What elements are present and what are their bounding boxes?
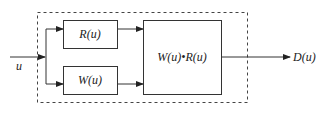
w-block-label: W(u) — [78, 73, 102, 87]
block-diagram: R(u) W(u) W(u)•R(u) D(u) u — [0, 0, 324, 114]
product-block-label: W(u)•R(u) — [157, 50, 207, 64]
r-block-label: R(u) — [78, 27, 100, 41]
output-label: D(u) — [292, 50, 316, 64]
input-label: u — [16, 59, 22, 73]
